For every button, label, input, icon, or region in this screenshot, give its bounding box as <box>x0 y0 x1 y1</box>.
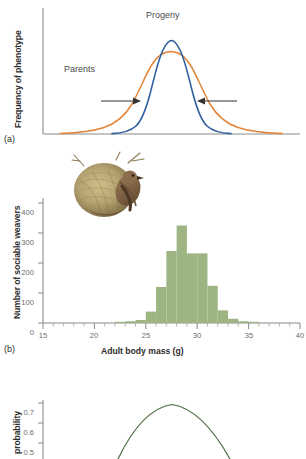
histogram-bar <box>228 319 238 323</box>
histogram-bar <box>177 226 187 324</box>
histogram-bar <box>146 312 156 323</box>
panel-c-y-axis-label: probability <box>12 411 22 454</box>
panel-a-y-axis-label: Frequency of phenotype <box>13 30 23 128</box>
selection-arrow-left <box>101 98 141 105</box>
panel-b-xtick-20: 20 <box>82 331 106 340</box>
panel-a-stabilizing-selection: Frequency of phenotype Progeny Parents (… <box>0 0 306 148</box>
progeny-label: Progeny <box>146 10 180 20</box>
panel-b-xtick-15: 15 <box>31 331 55 340</box>
panel-c-y-ticks <box>38 403 43 443</box>
selection-arrow-right <box>197 98 237 105</box>
histogram-bar <box>115 322 125 323</box>
histogram-bars <box>115 226 259 324</box>
panel-b-x-major-ticks <box>43 323 300 329</box>
progeny-curve <box>112 41 231 134</box>
histogram-bar <box>125 321 135 323</box>
panel-b-letter: (b) <box>4 344 15 354</box>
panel-b-y-axis-label: Number of sociable weavers <box>12 206 22 319</box>
histogram-bar <box>238 321 248 323</box>
parents-label: Parents <box>64 64 95 74</box>
histogram-bar <box>197 253 207 323</box>
panel-c-probability-curve: 0.7 0.6 0.5 probability <box>0 386 306 459</box>
probability-curve <box>118 405 230 459</box>
panel-b-xtick-30: 30 <box>185 331 209 340</box>
panel-b-y-ticks <box>38 203 43 323</box>
panel-b-xtick-25: 25 <box>134 331 158 340</box>
panel-b-ytick-0: 0 <box>2 328 34 337</box>
panel-b-xtick-35: 35 <box>237 331 261 340</box>
panel-c-plot <box>0 386 306 459</box>
histogram-bar <box>136 320 146 323</box>
panel-b-x-axis-label: Adult body mass (g) <box>101 346 184 356</box>
panel-a-plot <box>0 0 306 148</box>
histogram-bar <box>187 253 197 323</box>
histogram-bar <box>218 310 228 323</box>
histogram-bar <box>207 286 217 323</box>
panel-b-xtick-40: 40 <box>288 331 306 340</box>
panel-a-letter: (a) <box>4 134 15 144</box>
panel-b-weaver-mass-histogram: 0 100 200 300 400 15 20 25 30 35 40 Numb… <box>0 186 306 366</box>
histogram-bar <box>156 287 166 323</box>
histogram-bar <box>166 251 176 323</box>
histogram-bar <box>249 322 259 323</box>
